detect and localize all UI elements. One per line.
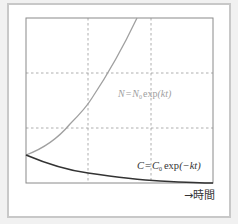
growth-curve <box>26 18 137 155</box>
decay-equation-label: C=C0exp(−kt) <box>137 160 201 172</box>
plot-area-border <box>26 18 213 183</box>
grid-lines <box>26 18 213 183</box>
growth-equation-label: N=N0exp(kt) <box>117 88 172 100</box>
x-axis-label: →時間 <box>184 186 215 202</box>
